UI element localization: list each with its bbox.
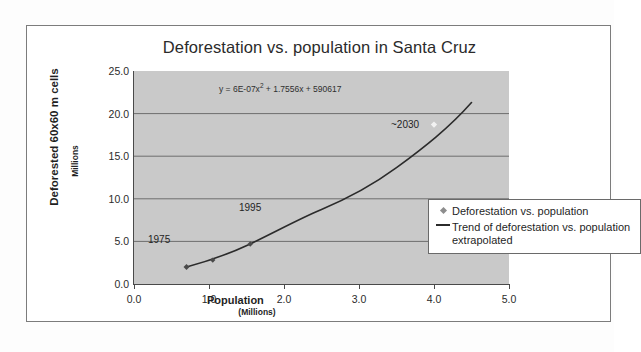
y-tick-label: 25.0 [89, 65, 129, 77]
chart-title: Deforestation vs. population in Santa Cr… [27, 38, 612, 57]
y-axis-title: Deforested 60x60 m cells [48, 37, 60, 237]
legend-item-deforestation[interactable]: Deforestation vs. population [434, 205, 634, 218]
x-tick-mark [209, 285, 210, 289]
legend-label: Deforestation vs. population [452, 205, 588, 218]
x-tick-label: 4.0 [414, 293, 454, 305]
chart-frame: Deforestation vs. population in Santa Cr… [26, 25, 611, 322]
annotation-1975: 1975 [148, 234, 170, 245]
trendline-equation: y = 6E-07x2 + 1.7556x + 590617 [219, 82, 342, 94]
x-tick-label: 5.0 [489, 293, 529, 305]
y-axis-units-label: Millions [70, 121, 80, 201]
chart-legend[interactable]: Deforestation vs. population Trend of de… [428, 199, 641, 254]
legend-item-trend[interactable]: Trend of deforestation vs. population ex… [434, 221, 634, 247]
y-axis-ticks: 25.0 20.0 15.0 10.0 5.0 0.0 [83, 71, 129, 285]
legend-label: Trend of deforestation vs. population ex… [452, 221, 634, 247]
x-axis-ticks: 0.0 1.0 2.0 3.0 4.0 5.0 [134, 285, 510, 315]
x-axis-title: Population [207, 294, 264, 306]
x-tick-label: 2.0 [264, 293, 304, 305]
x-tick-mark [509, 285, 510, 289]
x-axis-units-label: (Millions) [217, 307, 297, 317]
y-tick-label: 10.0 [89, 193, 129, 205]
x-tick-mark [134, 285, 135, 289]
x-tick-mark [359, 285, 360, 289]
y-tick-label: 20.0 [89, 108, 129, 120]
annotation-1995: 1995 [239, 202, 261, 213]
equation-prefix: y = 6E-07x [219, 84, 260, 94]
x-tick-label: 3.0 [339, 293, 379, 305]
equation-suffix: + 1.7556x + 590617 [264, 84, 342, 94]
x-tick-label: 0.0 [114, 293, 154, 305]
x-tick-mark [284, 285, 285, 289]
y-tick-label: 15.0 [89, 150, 129, 162]
x-tick-mark [434, 285, 435, 289]
data-point-markers [184, 121, 438, 270]
annotation-2030: ~2030 [391, 119, 419, 130]
y-tick-label: 5.0 [89, 235, 129, 247]
plot-area: y = 6E-07x2 + 1.7556x + 590617 1975 1995… [134, 71, 509, 284]
y-tick-label: 0.0 [89, 278, 129, 290]
diamond-marker-icon [434, 205, 452, 213]
line-marker-icon [434, 221, 452, 226]
